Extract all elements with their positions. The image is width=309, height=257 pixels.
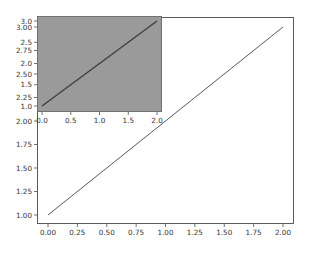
figure: 0.000.250.500.751.001.251.501.752.001.00… — [0, 0, 309, 257]
y-tick-label: 1.25 — [16, 187, 32, 196]
y-tick-label: 1.75 — [16, 140, 32, 149]
y-tick-label: 2.75 — [16, 46, 32, 55]
x-tick-label: 0.0 — [36, 116, 48, 125]
x-tick-label: 0.75 — [128, 228, 144, 237]
x-tick-label: 1.0 — [94, 116, 106, 125]
y-tick-label: 2.00 — [16, 117, 32, 126]
y-tick-label: 2.5 — [21, 38, 32, 47]
y-tick-label: 1.50 — [16, 164, 32, 173]
y-tick-label: 1.0 — [21, 102, 33, 111]
x-tick-label: 1.50 — [216, 228, 232, 237]
chart-canvas: 0.000.250.500.751.001.251.501.752.001.00… — [0, 0, 309, 257]
y-tick-label: 3.0 — [21, 17, 33, 26]
x-tick-label: 1.00 — [157, 228, 173, 237]
x-tick-label: 2.00 — [275, 228, 291, 237]
x-tick-label: 1.25 — [187, 228, 203, 237]
x-tick-label: 0.50 — [99, 228, 115, 237]
x-tick-label: 2.0 — [151, 116, 163, 125]
y-tick-label: 2.0 — [21, 59, 33, 68]
y-tick-label: 1.00 — [16, 211, 32, 220]
x-tick-label: 0.5 — [65, 116, 76, 125]
inset-axes: 0.00.51.01.52.01.01.52.02.53.0 — [21, 16, 164, 125]
y-tick-label: 1.5 — [21, 80, 32, 89]
x-tick-label: 1.75 — [246, 228, 262, 237]
x-tick-label: 0.00 — [40, 228, 56, 237]
y-tick-label: 2.50 — [16, 70, 32, 79]
x-tick-label: 0.25 — [69, 228, 85, 237]
x-tick-label: 1.5 — [123, 116, 134, 125]
